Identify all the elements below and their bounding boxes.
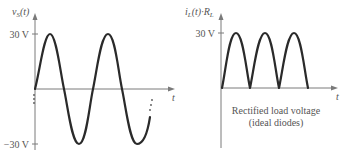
rectified-voltage-curve — [222, 33, 308, 88]
left-ytick-30v: 30 V — [9, 29, 29, 40]
left-x-axis-arrow-icon — [168, 87, 175, 92]
caption-line-2: (ideal diodes) — [249, 117, 304, 129]
left-y-axis-arrow-icon — [33, 13, 38, 20]
right-y-label: iL(t)·RL — [185, 6, 214, 19]
left-y-label: vS(t) — [12, 6, 30, 19]
right-x-label: t — [336, 91, 339, 102]
left-ytick-neg30v: −30 V — [4, 139, 30, 150]
rectifier-waveforms-figure: vS(t) 30 V −30 V t iL(t)·RL — [0, 0, 353, 156]
caption-line-1: Rectified load voltage — [232, 105, 321, 116]
left-x-label: t — [172, 92, 175, 103]
left-start-ellipsis-icon — [33, 94, 35, 104]
right-x-axis-arrow-icon — [331, 86, 338, 91]
source-voltage-plot: vS(t) 30 V −30 V t — [4, 6, 175, 150]
right-ytick-30v: 30 V — [195, 28, 215, 39]
right-y-axis-arrow-icon — [219, 13, 224, 20]
left-end-ellipsis-icon — [149, 99, 153, 111]
rectified-voltage-plot: iL(t)·RL 30 V t Rectified load voltage (… — [185, 6, 339, 148]
